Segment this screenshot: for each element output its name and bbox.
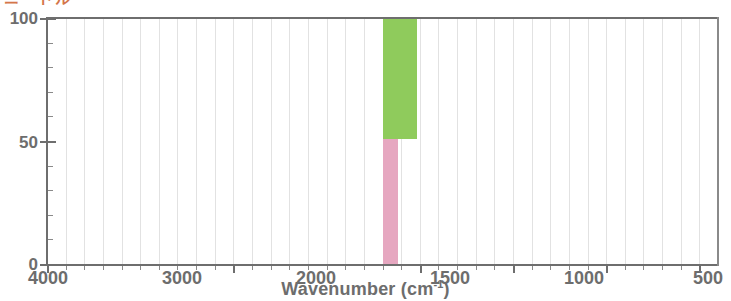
y-tick-outer [40, 18, 46, 20]
x-tick-major [233, 266, 235, 273]
gridline-vertical [140, 18, 141, 264]
gridline-vertical [345, 18, 346, 264]
y-tick-label: 50 [0, 133, 38, 153]
axis-line-right [717, 17, 719, 266]
axis-line-top [46, 17, 719, 19]
y-tick-major [48, 264, 56, 266]
x-tick-major [513, 266, 515, 273]
y-tick-minor [48, 116, 53, 117]
y-tick-label: 100 [0, 9, 38, 29]
gridline-vertical [550, 18, 551, 264]
gridline-vertical [476, 18, 477, 264]
gridline-vertical [681, 18, 682, 264]
x-tick-minor [252, 266, 253, 270]
x-tick-minor [383, 266, 384, 270]
gridline-vertical [457, 18, 458, 264]
y-tick-minor [48, 239, 53, 240]
bar-green-band [383, 18, 417, 139]
y-tick-major [48, 18, 56, 20]
y-tick-minor [48, 67, 53, 68]
gridline-vertical [159, 18, 160, 264]
gridline-vertical [513, 18, 514, 264]
gridline-vertical [420, 18, 421, 264]
gridline-vertical [569, 18, 570, 264]
gridline-vertical [289, 18, 290, 264]
gridline-vertical [494, 18, 495, 264]
x-tick-minor [122, 266, 123, 270]
gridline-vertical [625, 18, 626, 264]
y-tick-outer [40, 141, 46, 143]
bar-pink-band [383, 139, 398, 264]
gridline-vertical [215, 18, 216, 264]
gridline-vertical [196, 18, 197, 264]
gridline-vertical [233, 18, 234, 264]
gridline-vertical [122, 18, 123, 264]
x-tick-minor [643, 266, 644, 270]
y-tick-minor [48, 215, 53, 216]
gridline-vertical [252, 18, 253, 264]
gridline-vertical [308, 18, 309, 264]
y-tick-outer [40, 264, 46, 266]
gridline-vertical [588, 18, 589, 264]
y-tick-minor [48, 43, 53, 44]
x-axis-title-superscript: -1 [433, 278, 443, 290]
figure-heading: ニードル [4, 0, 72, 5]
x-tick-minor [401, 266, 402, 270]
gridline-vertical [66, 18, 67, 264]
y-tick-minor [48, 190, 53, 191]
gridline-vertical [699, 18, 700, 264]
gridline-vertical [364, 18, 365, 264]
gridline-vertical [84, 18, 85, 264]
gridline-vertical [271, 18, 272, 264]
x-axis-title-close: ) [444, 279, 450, 299]
y-tick-minor [48, 92, 53, 93]
x-tick-minor [532, 266, 533, 270]
gridline-vertical [606, 18, 607, 264]
gridline-vertical [662, 18, 663, 264]
gridline-vertical [177, 18, 178, 264]
y-tick-minor [48, 166, 53, 167]
gridline-vertical [438, 18, 439, 264]
x-tick-minor [625, 266, 626, 270]
x-tick-minor [140, 266, 141, 270]
x-tick-minor [271, 266, 272, 270]
x-axis-title: Wavenumber (cm-1) [0, 279, 731, 300]
x-tick-minor [662, 266, 663, 270]
gridline-vertical [103, 18, 104, 264]
plot-area [46, 17, 718, 265]
x-tick-minor [364, 266, 365, 270]
gridline-vertical [532, 18, 533, 264]
y-tick-major [48, 141, 56, 143]
x-tick-minor [103, 266, 104, 270]
gridline-vertical [327, 18, 328, 264]
spectrum-chart: ニードル 100500 40003000200015001000500 Wave… [0, 0, 731, 301]
x-axis-title-base: Wavenumber (cm [281, 279, 433, 299]
x-tick-minor [494, 266, 495, 270]
gridline-vertical [643, 18, 644, 264]
